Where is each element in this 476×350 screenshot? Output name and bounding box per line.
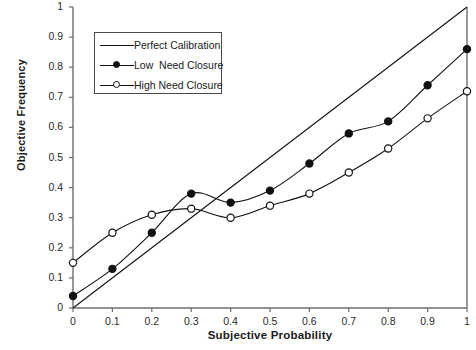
data-point-1 — [345, 130, 352, 137]
legend-label-high-need-closure: High Need Closure — [134, 79, 223, 91]
legend-item-high-need-closure: High Need Closure — [95, 75, 223, 95]
x-tick-label: 0.2 — [135, 315, 169, 327]
y-tick-label: 1 — [29, 0, 63, 12]
data-point-2 — [69, 259, 76, 266]
x-tick-label: 0.8 — [371, 315, 405, 327]
x-tick-label: 0.7 — [332, 315, 366, 327]
legend-line-sample-icon — [100, 37, 134, 53]
x-tick-label: 0.6 — [292, 315, 326, 327]
y-tick-label: 0.2 — [29, 241, 63, 253]
data-point-2 — [424, 115, 431, 122]
chart-plot-area — [0, 0, 476, 350]
data-point-1 — [148, 229, 155, 236]
y-axis-label-text: Objective Frequency — [15, 59, 27, 171]
data-point-1 — [306, 160, 313, 167]
y-tick-label: 0.1 — [29, 271, 63, 283]
x-tick-label: 0.3 — [174, 315, 208, 327]
y-tick-label: 0.4 — [29, 181, 63, 193]
data-point-1 — [266, 187, 273, 194]
legend-item-perfect-calibration: Perfect Calibration — [95, 35, 223, 55]
y-tick-label: 0.6 — [29, 120, 63, 132]
legend-open-circle-sample-icon — [100, 77, 134, 93]
x-tick-label: 0.9 — [411, 315, 445, 327]
legend-item-low-need-closure: Low Need Closure — [95, 55, 223, 75]
data-point-1 — [109, 265, 116, 272]
y-tick-label: 0.9 — [29, 30, 63, 42]
x-tick-label: 0.5 — [253, 315, 287, 327]
x-axis-label: Subjective Probability — [73, 329, 467, 341]
chart-legend: Perfect Calibration Low Need Closure Hig… — [94, 32, 222, 94]
series-line-2 — [73, 91, 467, 263]
data-point-1 — [188, 190, 195, 197]
y-tick-label: 0.5 — [29, 151, 63, 163]
y-tick-label: 0.8 — [29, 60, 63, 72]
x-tick-label: 0 — [56, 315, 90, 327]
data-point-1 — [463, 46, 470, 53]
x-tick-label: 0.4 — [214, 315, 248, 327]
legend-filled-circle-sample-icon — [100, 57, 134, 73]
data-point-2 — [385, 145, 392, 152]
data-point-2 — [463, 88, 470, 95]
legend-label-low-need-closure: Low Need Closure — [134, 59, 223, 71]
data-point-2 — [345, 169, 352, 176]
data-point-1 — [385, 118, 392, 125]
data-point-2 — [227, 214, 234, 221]
data-point-2 — [188, 205, 195, 212]
legend-label-perfect-calibration: Perfect Calibration — [134, 39, 220, 51]
data-point-2 — [266, 202, 273, 209]
data-point-1 — [227, 199, 234, 206]
data-point-2 — [306, 190, 313, 197]
x-tick-label: 0.1 — [95, 315, 129, 327]
y-tick-label: 0 — [29, 301, 63, 313]
x-tick-label: 1 — [450, 315, 476, 327]
chart-figure: Objective Frequency Subjective Probabili… — [0, 0, 476, 350]
y-tick-label: 0.7 — [29, 90, 63, 102]
data-point-2 — [148, 211, 155, 218]
data-point-1 — [424, 82, 431, 89]
data-point-2 — [109, 229, 116, 236]
y-tick-label: 0.3 — [29, 211, 63, 223]
data-point-1 — [69, 292, 76, 299]
y-axis-label: Objective Frequency — [14, 50, 28, 180]
